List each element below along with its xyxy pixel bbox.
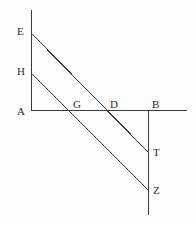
vertex-label-b: B [152,99,159,110]
figure-canvas [0,0,196,225]
vertex-label-e: E [17,26,24,37]
segment-group [31,10,187,215]
vertex-label-z: Z [153,185,160,196]
geometry-figure: EHAGDBTZ [0,0,196,225]
line-transversal-E-T [31,33,148,152]
line-transversal-H-Z [31,73,148,190]
vertex-label-h: H [17,66,25,77]
vertex-label-a: A [17,106,25,117]
vertex-label-t: T [153,147,160,158]
vertex-label-d: D [110,99,118,110]
vertex-label-g: G [73,99,81,110]
